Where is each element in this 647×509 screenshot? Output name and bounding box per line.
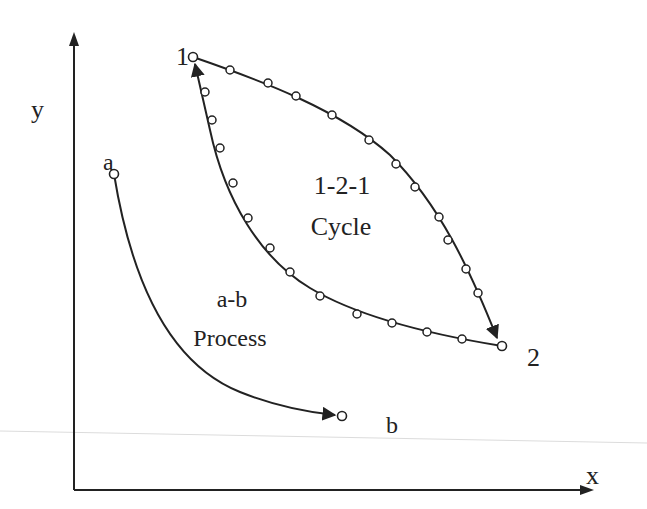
y-axis bbox=[69, 32, 79, 490]
process-label-line2: Process bbox=[193, 325, 266, 351]
point-b-marker bbox=[338, 412, 347, 421]
y-axis-label: y bbox=[31, 95, 44, 124]
point-1-marker bbox=[189, 53, 198, 62]
point-b-label: b bbox=[386, 412, 398, 438]
point-a-label: a bbox=[103, 149, 114, 175]
process-label-line1: a-b bbox=[217, 286, 248, 312]
point-2-label: 2 bbox=[527, 343, 540, 372]
guide-line bbox=[0, 431, 647, 443]
x-axis bbox=[74, 485, 594, 495]
point-1-label: 1 bbox=[176, 42, 189, 71]
cycle-label-line2: Cycle bbox=[311, 212, 372, 241]
point-2-marker bbox=[498, 342, 507, 351]
diagram-canvas: y x a b a-b Process bbox=[0, 0, 647, 509]
y-axis-arrow-icon bbox=[69, 32, 79, 46]
cycle-label-line1: 1-2-1 bbox=[314, 171, 370, 200]
x-axis-label: x bbox=[586, 461, 599, 490]
